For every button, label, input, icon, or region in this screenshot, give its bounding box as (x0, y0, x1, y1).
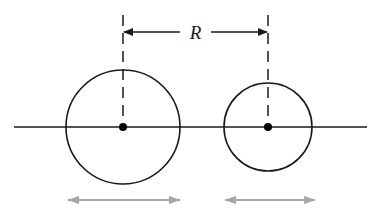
distance-label: R (189, 22, 202, 43)
two-body-diagram: R (0, 0, 389, 208)
